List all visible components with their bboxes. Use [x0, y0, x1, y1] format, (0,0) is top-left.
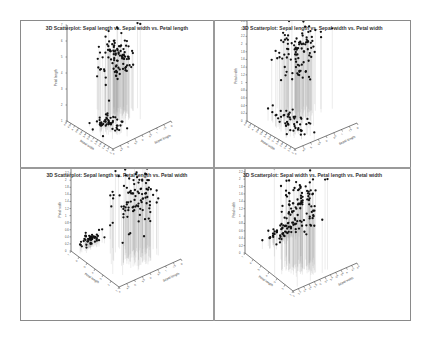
svg-text:7: 7 [240, 255, 244, 259]
svg-text:1: 1 [239, 214, 241, 218]
svg-text:2: 2 [239, 177, 241, 181]
svg-text:2.6: 2.6 [307, 285, 313, 291]
scatter3d-plot: 44.555.566.577.5822.22.42.62.833.23.43.6… [21, 21, 213, 167]
svg-text:2: 2 [106, 283, 110, 287]
scatter3d-plot: 44.555.566.577.58123456700.20.40.60.811.… [21, 169, 213, 320]
scatter3d-plot: 22.22.42.62.833.23.43.63.844.24.41234567… [215, 169, 410, 320]
svg-text:1: 1 [61, 119, 63, 123]
z-axis-label: Petal width [232, 202, 236, 218]
svg-text:2.2: 2.2 [65, 171, 69, 175]
z-axis-label: Petal length [54, 69, 58, 86]
svg-text:4.5: 4.5 [119, 146, 125, 152]
svg-text:2: 2 [280, 286, 284, 290]
svg-text:5: 5 [256, 267, 260, 271]
svg-text:4.5: 4.5 [125, 284, 131, 290]
svg-text:5.5: 5.5 [141, 277, 147, 283]
svg-text:1.6: 1.6 [65, 192, 69, 196]
svg-text:2.6: 2.6 [241, 21, 245, 23]
svg-text:8: 8 [169, 124, 173, 128]
x-axis-label: Sepal length [162, 271, 180, 282]
svg-text:4: 4 [345, 270, 349, 274]
axes: 44.555.566.577.58123456700.20.40.60.811.… [58, 169, 184, 294]
svg-text:1.6: 1.6 [241, 57, 245, 61]
svg-text:1.4: 1.4 [241, 65, 245, 69]
svg-text:4.4: 4.4 [355, 264, 361, 270]
svg-text:0.4: 0.4 [241, 104, 245, 108]
drop-lines [268, 21, 332, 141]
svg-text:0.6: 0.6 [239, 229, 243, 233]
svg-text:6: 6 [148, 276, 152, 280]
svg-text:3.6: 3.6 [334, 273, 340, 279]
x-axis-label: Sepal length [154, 133, 172, 144]
svg-text:2: 2 [241, 42, 243, 46]
svg-text:7.5: 7.5 [162, 125, 168, 131]
svg-text:2.4: 2.4 [241, 27, 245, 31]
svg-text:1: 1 [241, 81, 243, 85]
svg-text:1.8: 1.8 [241, 50, 245, 54]
svg-text:7: 7 [61, 23, 63, 27]
svg-text:0.8: 0.8 [239, 221, 243, 225]
svg-text:0: 0 [65, 249, 67, 253]
svg-text:3.4: 3.4 [329, 276, 335, 282]
svg-text:1.4: 1.4 [239, 199, 243, 203]
svg-text:0.4: 0.4 [239, 236, 243, 240]
svg-text:0.2: 0.2 [65, 242, 69, 246]
z-axis-label: Petal width [58, 202, 62, 218]
svg-text:8: 8 [179, 262, 183, 266]
svg-text:6.5: 6.5 [148, 132, 154, 138]
scatter-panel-2: 3D Scatterplot: Sepal length vs. Sepal w… [215, 21, 410, 167]
drop-lines [262, 169, 327, 287]
svg-text:7: 7 [66, 253, 70, 257]
svg-text:6: 6 [248, 261, 252, 265]
svg-text:0.6: 0.6 [241, 96, 245, 100]
svg-text:4.2: 4.2 [350, 266, 356, 272]
svg-text:0.2: 0.2 [241, 111, 245, 115]
svg-text:1.8: 1.8 [65, 185, 69, 189]
svg-text:6.5: 6.5 [156, 270, 162, 276]
scatter3d-plot: 44.555.566.577.5822.22.42.62.833.23.43.6… [215, 21, 410, 167]
svg-text:2.2: 2.2 [297, 290, 303, 296]
svg-text:6: 6 [61, 39, 63, 43]
svg-text:3.8: 3.8 [339, 271, 345, 277]
x-axis-label: Sepal width [337, 276, 354, 287]
scatter-panel-3: 3D Scatterplot: Sepal length vs. Petal l… [21, 169, 213, 320]
svg-text:7: 7 [155, 131, 159, 135]
svg-text:3: 3 [318, 282, 322, 286]
drop-lines [80, 169, 158, 275]
svg-text:2.2: 2.2 [239, 170, 243, 174]
svg-text:0.8: 0.8 [241, 88, 245, 92]
svg-text:5: 5 [133, 283, 137, 287]
svg-text:4: 4 [90, 271, 94, 275]
svg-text:6: 6 [74, 259, 78, 263]
svg-text:0: 0 [241, 119, 243, 123]
svg-text:6: 6 [140, 138, 144, 142]
svg-text:5: 5 [61, 55, 63, 59]
svg-text:3: 3 [270, 139, 274, 143]
svg-text:5: 5 [82, 265, 86, 269]
svg-text:0.8: 0.8 [65, 221, 69, 225]
svg-text:2.8: 2.8 [313, 283, 319, 289]
svg-text:2: 2 [65, 178, 67, 182]
svg-text:6: 6 [324, 139, 328, 143]
svg-text:1.4: 1.4 [65, 199, 69, 203]
y-axis-label: Sepal width [79, 139, 95, 151]
x-axis-label: Sepal length [338, 135, 356, 146]
svg-text:2.4: 2.4 [302, 287, 308, 293]
svg-text:5: 5 [126, 145, 130, 149]
svg-text:0: 0 [239, 251, 241, 255]
svg-text:1.8: 1.8 [239, 185, 243, 189]
svg-text:1.2: 1.2 [241, 73, 245, 77]
svg-text:7: 7 [164, 269, 168, 273]
svg-text:4: 4 [61, 71, 63, 75]
scatter-panel-4: 3D Scatterplot: Sepal width vs. Petal le… [215, 169, 410, 320]
svg-text:3: 3 [89, 139, 93, 143]
svg-text:3: 3 [61, 87, 63, 91]
svg-text:4: 4 [70, 127, 74, 131]
svg-text:4: 4 [250, 127, 254, 131]
svg-text:1.2: 1.2 [239, 207, 243, 211]
svg-text:7: 7 [340, 132, 344, 136]
svg-text:5.5: 5.5 [317, 140, 323, 146]
svg-text:3.2: 3.2 [323, 278, 329, 284]
svg-text:0.2: 0.2 [239, 244, 243, 248]
svg-text:6.5: 6.5 [332, 134, 338, 140]
